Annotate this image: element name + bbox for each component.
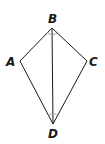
label-c: C bbox=[89, 55, 98, 69]
label-d: D bbox=[48, 127, 58, 141]
label-b: B bbox=[48, 12, 57, 26]
diagonal-bd bbox=[52, 28, 53, 124]
kite-sides bbox=[20, 28, 87, 124]
segment-cd bbox=[53, 61, 87, 124]
segment-ab bbox=[20, 28, 52, 61]
kite-diagram: B A C D bbox=[0, 0, 105, 144]
segment-da bbox=[20, 61, 53, 124]
label-a: A bbox=[5, 55, 15, 69]
segment-bc bbox=[52, 28, 87, 61]
